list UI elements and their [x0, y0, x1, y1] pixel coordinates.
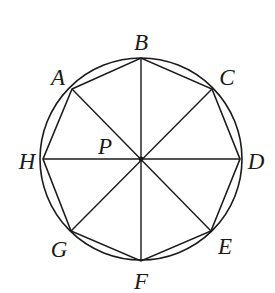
label-F: F [133, 269, 149, 293]
label-P: P [97, 134, 112, 159]
label-D: D [247, 149, 265, 174]
label-A: A [49, 65, 66, 90]
label-B: B [134, 30, 148, 55]
label-H: H [18, 149, 37, 174]
center-point [139, 157, 144, 162]
label-G: G [51, 237, 68, 262]
label-C: C [219, 65, 235, 90]
label-E: E [217, 234, 232, 259]
octagon-diagram: A B C D E F G H P [0, 0, 275, 293]
